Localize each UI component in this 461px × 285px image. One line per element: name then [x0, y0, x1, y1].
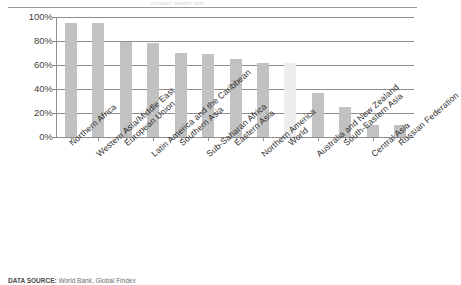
- y-axis-tick-label: 40%: [9, 84, 53, 94]
- x-axis-tick-mark: [98, 137, 99, 141]
- x-axis-tick-mark: [263, 137, 264, 141]
- source-detail: World Bank, Global Findex: [57, 277, 136, 284]
- y-axis-line: [56, 17, 57, 138]
- cropped-header-text: cropped header text: [150, 0, 330, 5]
- y-axis-tick-label: 80%: [9, 36, 53, 46]
- bar: [65, 23, 77, 137]
- y-axis-tick-label: 60%: [9, 60, 53, 70]
- x-axis-tick-mark: [373, 137, 374, 141]
- x-axis-tick-mark: [153, 137, 154, 141]
- header-divider: [8, 7, 417, 8]
- x-axis-tick-mark: [318, 137, 319, 141]
- y-axis-tick-mark: [53, 113, 57, 114]
- y-axis-tick-mark: [53, 89, 57, 90]
- data-source-note: DATA SOURCE: World Bank, Global Findex: [8, 277, 308, 285]
- gridline: [57, 41, 414, 42]
- y-axis-tick-label: 20%: [9, 108, 53, 118]
- y-axis-tick-mark: [53, 65, 57, 66]
- source-label: DATA SOURCE:: [8, 277, 57, 284]
- y-axis-tick-label: 100%: [9, 12, 53, 22]
- y-axis-tick-label: 0%: [9, 132, 53, 142]
- y-axis-tick-mark: [53, 137, 57, 138]
- y-axis-tick-mark: [53, 17, 57, 18]
- y-axis-tick-mark: [53, 41, 57, 42]
- gridline: [57, 17, 414, 18]
- x-axis-tick-mark: [208, 137, 209, 141]
